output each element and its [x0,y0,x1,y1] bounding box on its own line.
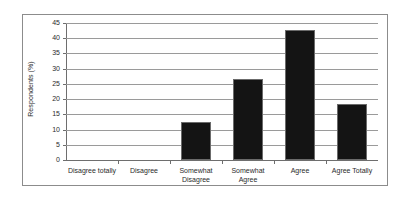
gridline [66,69,378,70]
y-axis-tick-label: 45 [38,19,60,27]
bar-chart-figure: Respondents (%) 051015202530354045 Disag… [0,0,410,200]
plot-area [66,23,378,160]
gridline [66,99,378,100]
gridline [66,130,378,131]
gridline [66,23,378,24]
y-axis-tick-label: 25 [38,80,60,88]
x-axis-tick-mark [118,160,119,164]
y-axis-tick-label: 0 [38,156,60,164]
gridline [66,84,378,85]
gridline [66,53,378,54]
y-axis-tick-label: 15 [38,110,60,118]
x-axis-tick-mark [170,160,171,164]
y-axis-tick-label: 5 [38,141,60,149]
x-axis-category-label: Agree Totally [320,166,384,175]
bar [181,122,211,160]
y-axis-tick-label: 35 [38,49,60,57]
y-axis-tick-label: 40 [38,34,60,42]
bar [337,104,367,160]
x-axis-tick-mark [326,160,327,164]
y-axis-tick-label: 10 [38,126,60,134]
bar [285,30,315,160]
y-axis-tick-label: 30 [38,65,60,73]
gridline [66,145,378,146]
x-axis-tick-mark [222,160,223,164]
bar [233,79,263,160]
x-axis-tick-mark [274,160,275,164]
gridline [66,38,378,39]
gridline [66,114,378,115]
y-axis-tick-label: 20 [38,95,60,103]
